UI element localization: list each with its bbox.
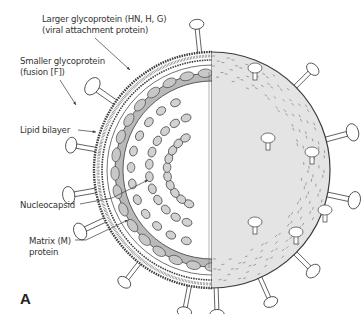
nucleocapsid-capsomer xyxy=(127,162,135,172)
label-line: Lipid bilayer xyxy=(20,125,70,136)
spike-head xyxy=(344,122,360,142)
spike-head xyxy=(305,147,319,157)
spike-stalk xyxy=(195,29,202,55)
spike-stalk xyxy=(325,192,349,202)
glycoprotein-spike xyxy=(292,250,322,280)
spike-head xyxy=(189,19,204,30)
spike-head xyxy=(318,205,332,215)
virus-diagram xyxy=(0,0,361,314)
spike-head xyxy=(261,133,275,143)
glycoprotein-spike xyxy=(293,61,322,90)
label-line: Matrix (M) xyxy=(29,236,71,247)
spike-head xyxy=(262,295,279,310)
matrix-protein-unit xyxy=(111,166,120,180)
label-matrix-protein: Matrix (M) protein xyxy=(29,236,71,258)
glycoprotein-spike xyxy=(323,122,360,142)
spike-head xyxy=(347,190,361,210)
spike-head xyxy=(64,136,78,154)
spike-stalk xyxy=(323,131,347,142)
label-line: Larger glycoprotein (HN, H, G) xyxy=(42,14,166,25)
label-line: (viral attachment protein) xyxy=(42,25,166,36)
glycoprotein-spike xyxy=(176,283,192,314)
spike-head xyxy=(210,309,225,314)
label-smaller-glycoprotein: Smaller glycoprotein (fusion [F]) xyxy=(20,56,105,78)
spike-head xyxy=(71,221,89,242)
spike-stalk xyxy=(183,283,191,307)
leader-arrowhead xyxy=(73,102,76,105)
label-line: Smaller glycoprotein xyxy=(20,56,105,67)
label-line: (fusion [F]) xyxy=(20,67,105,78)
glycoprotein-spike xyxy=(116,260,143,290)
glycoprotein-spike xyxy=(210,286,225,314)
label-lipid-bilayer: Lipid bilayer xyxy=(20,125,70,136)
spike-stalk xyxy=(74,188,98,197)
surface-spike xyxy=(318,205,332,222)
glycoprotein-spike xyxy=(257,275,279,309)
glycoprotein-spike xyxy=(189,19,204,55)
spike-stalk xyxy=(76,144,98,152)
spike-head xyxy=(176,306,192,314)
panel-label: A xyxy=(20,290,31,307)
label-larger-glycoprotein: Larger glycoprotein (HN, H, G) (viral at… xyxy=(42,14,166,36)
nucleocapsid-capsomer xyxy=(163,162,171,173)
label-line: protein xyxy=(29,247,71,258)
spike-stalk xyxy=(214,286,219,310)
spike-head xyxy=(248,217,262,227)
label-nucleocapsid: Nucleocapsid xyxy=(20,200,75,211)
glycoprotein-spike xyxy=(64,136,98,154)
spike-head xyxy=(248,63,262,73)
spike-head xyxy=(289,227,303,237)
glycoprotein-spike xyxy=(81,75,118,106)
label-line: Nucleocapsid xyxy=(20,200,75,211)
leader-line xyxy=(60,80,76,105)
